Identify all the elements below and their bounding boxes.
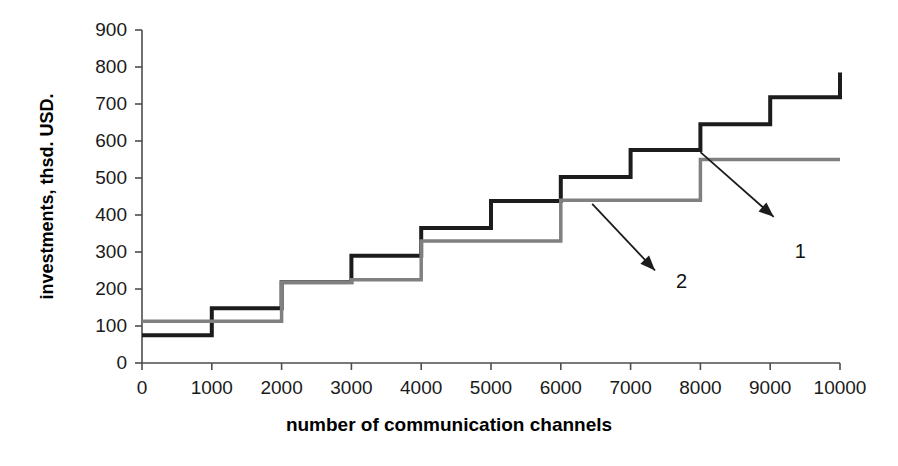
y-axis-tick-label: 500: [67, 168, 127, 187]
annotation-label-2: 2: [676, 271, 687, 291]
y-axis-tick-label: 600: [67, 131, 127, 150]
annotation-label-1: 1: [795, 241, 806, 261]
axes-group: [135, 30, 840, 370]
series-line-1: [142, 73, 840, 336]
y-axis-tick-label: 700: [67, 94, 127, 113]
y-axis-tick-label: 800: [67, 57, 127, 76]
y-axis-title: investments, thsd. USD.: [37, 72, 58, 322]
chart-container: 0100200300400500600700800900 01000200030…: [0, 0, 898, 466]
y-axis-tick-label: 0: [67, 353, 127, 372]
x-axis-title: number of communication channels: [0, 414, 898, 436]
y-axis-tick-label: 300: [67, 242, 127, 261]
annotation-arrows-group: [592, 152, 773, 270]
y-axis-tick-label: 100: [67, 316, 127, 335]
y-axis-tick-label: 900: [67, 20, 127, 39]
x-axis-tick-label: 10000: [795, 378, 885, 397]
y-axis-tick-label: 400: [67, 205, 127, 224]
data-series-group: [142, 73, 840, 336]
y-axis-tick-label: 200: [67, 279, 127, 298]
